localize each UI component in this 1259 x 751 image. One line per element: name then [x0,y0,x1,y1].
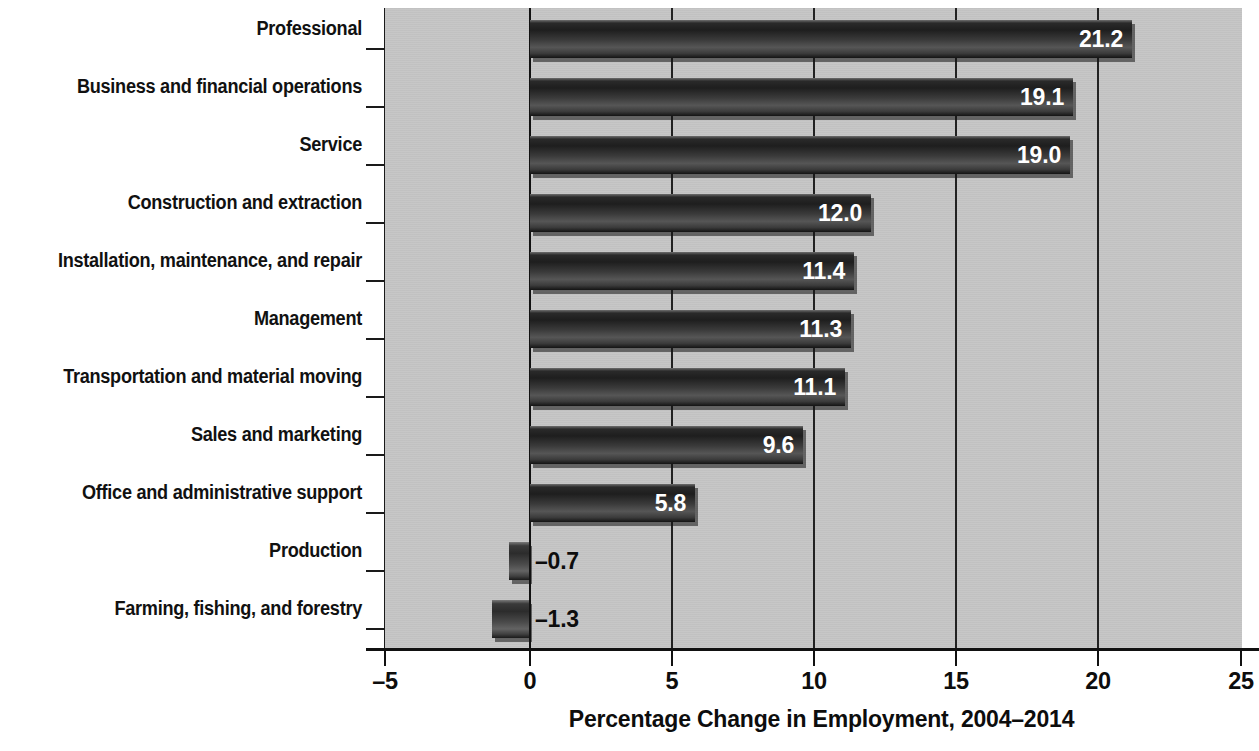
bar: 11.4 [530,252,854,290]
bar: 5.8 [530,484,695,522]
bar: 11.1 [530,368,845,406]
category-label: Production [25,541,362,561]
bar-value-label: 19.0 [530,136,1070,174]
x-axis-title-text: Percentage Change in Employment, 2004–20… [569,706,1074,733]
x-axis-tick-label: 15 [943,668,969,695]
x-axis-title: Percentage Change in Employment, 2004–20… [0,706,1259,733]
y-axis-tick [366,280,385,282]
horizontal-bar-chart: Professional Business and financial oper… [0,0,1259,751]
x-axis-tick [671,649,673,666]
bar-value-label: 11.4 [530,252,854,290]
bar-value-label: 21.2 [530,20,1132,58]
y-axis-tick [366,570,385,572]
x-axis-tick [955,649,957,666]
category-label: Construction and extraction [25,193,362,213]
y-axis-tick [366,222,385,224]
y-axis-tick [366,396,385,398]
y-axis-tick [366,48,385,50]
bar-value-label: –1.3 [535,600,579,638]
category-label: Farming, fishing, and forestry [25,599,362,619]
bar-value-label: 9.6 [530,426,803,464]
bar [509,542,529,580]
y-axis-tick [366,164,385,166]
bar-value-label: 11.1 [530,368,845,406]
bar: 19.1 [530,78,1073,116]
x-axis-tick [1240,649,1242,666]
x-axis-tick [1097,649,1099,666]
bar: 19.0 [530,136,1070,174]
x-axis-tick [384,649,386,666]
y-axis-tick [366,628,385,630]
category-axis-labels: Professional Business and financial oper… [0,8,362,648]
x-axis-tick [529,649,531,666]
category-label: Transportation and material moving [25,367,362,387]
category-label: Sales and marketing [25,425,362,445]
category-label: Management [25,309,362,329]
bar [492,600,529,638]
bar-value-label: –0.7 [535,542,579,580]
plot-area: 21.2 19.1 19.0 12.0 11.4 11.3 11.1 9.6 5… [385,8,1242,648]
x-axis-tick-label: 25 [1228,668,1254,695]
y-axis-tick [366,512,385,514]
y-axis-tick [366,454,385,456]
y-axis-tick [366,338,385,340]
bar-value-label: 11.3 [530,310,851,348]
category-label: Installation, maintenance, and repair [25,251,362,271]
category-label: Office and administrative support [25,483,362,503]
bar: 21.2 [530,20,1132,58]
bar: 9.6 [530,426,803,464]
bar-value-label: 5.8 [530,484,695,522]
x-axis-tick-label: 20 [1085,668,1111,695]
y-axis-tick [366,106,385,108]
x-axis-tick-label: 10 [801,668,827,695]
category-label: Professional [25,19,362,39]
category-label: Business and financial operations [25,77,362,97]
gridline-20 [1097,8,1099,648]
x-axis-tick-label: 0 [524,668,537,695]
bar: 11.3 [530,310,851,348]
x-axis-tick-label: 5 [666,668,679,695]
category-label: Service [25,135,362,155]
bar: 12.0 [530,194,871,232]
x-axis-tick [813,649,815,666]
bar-value-label: 12.0 [530,194,871,232]
bar-value-label: 19.1 [530,78,1073,116]
x-axis-tick-label: –5 [372,668,398,695]
